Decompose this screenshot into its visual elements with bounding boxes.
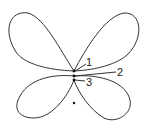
lower-left-wing: [17, 76, 74, 118]
label-1: 1: [86, 56, 92, 68]
upper-left-wing: [9, 13, 74, 71]
upper-right-wing: [74, 13, 139, 71]
point-1: [73, 70, 76, 73]
leader-line-2: [75, 72, 116, 76]
center-point: [73, 102, 75, 104]
lower-right-wing: [74, 76, 130, 120]
label-2: 2: [117, 66, 123, 78]
butterfly-diagram: 1 2 3: [0, 0, 146, 133]
butterfly-curve-figure: 1 2 3: [0, 0, 146, 133]
point-2: [73, 75, 76, 78]
label-3: 3: [86, 76, 92, 88]
leader-line-3: [75, 80, 85, 81]
point-3: [73, 79, 76, 82]
